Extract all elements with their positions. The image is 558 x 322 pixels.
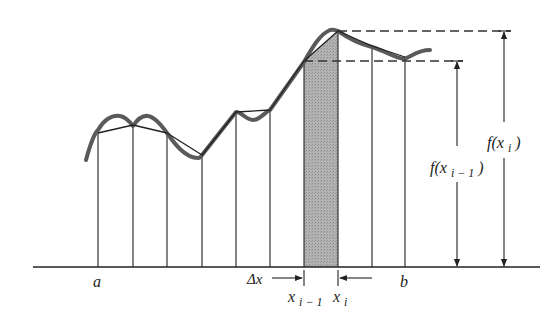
label-x-i-minus-1: x i − 1 <box>287 288 323 309</box>
delta-x-arrows <box>272 270 372 286</box>
label-f-x-i-minus-1: f(x i − 1 ) <box>430 159 484 180</box>
label-a: a <box>93 273 101 290</box>
label-x-i: x i <box>332 288 347 309</box>
partition-lines <box>98 31 405 267</box>
function-curve <box>86 30 430 160</box>
label-f-x-i-minus-1-sub: i − 1 <box>451 166 474 180</box>
label-b: b <box>400 273 408 290</box>
label-f-x-i-close: ) <box>514 134 520 152</box>
label-x-i-sub: i <box>344 295 347 309</box>
label-f-x-i: f(x i ) <box>487 134 521 155</box>
shaded-trapezoid <box>304 31 338 267</box>
label-delta-x: Δx <box>246 271 263 287</box>
trapezoid-chords <box>98 31 405 155</box>
label-f-x-i-minus-1-close: ) <box>477 159 483 177</box>
height-arrow-f-xi-1 <box>451 61 463 266</box>
label-x-i-minus-1-sub: i − 1 <box>299 295 322 309</box>
label-x-i-base: x <box>332 288 340 305</box>
label-x-i-minus-1-base: x <box>287 288 295 305</box>
label-f-x-i-sub: i <box>508 141 511 155</box>
label-f-x-i-f: f(x <box>487 134 504 152</box>
trapezoid-diagram: a b Δx x i − 1 x i f(x i − 1 ) f(x i ) <box>0 0 558 322</box>
label-f-x-i-minus-1-f: f(x <box>430 159 447 177</box>
